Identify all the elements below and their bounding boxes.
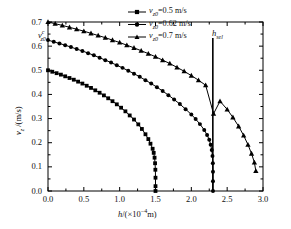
data-point [140, 127, 144, 131]
data-point [149, 142, 153, 146]
data-point [98, 56, 102, 60]
data-point [126, 69, 130, 73]
data-point [194, 117, 198, 121]
data-point [85, 84, 89, 88]
y-tick-label-3: 0.3 [16, 113, 42, 123]
data-point [76, 80, 80, 84]
data-point [144, 132, 148, 136]
x-tick-label-2: 1.0 [107, 194, 133, 204]
data-point [249, 151, 254, 156]
legend-value-2: =0.7 m/s [158, 31, 187, 40]
data-point [111, 99, 115, 103]
data-point [202, 128, 206, 132]
data-point [161, 89, 165, 93]
data-point [154, 184, 158, 188]
data-point [75, 47, 79, 51]
data-point [132, 118, 136, 122]
reference-line-label: hsel [212, 28, 223, 40]
data-point [132, 72, 136, 76]
data-point [46, 68, 50, 72]
y-tick-label-7: 0.7 [16, 17, 42, 27]
legend-entry-1[interactable]: vz0=0.62 m/s [149, 19, 191, 30]
data-point [146, 137, 150, 141]
data-point [103, 58, 107, 62]
data-point [86, 51, 90, 55]
data-point [153, 156, 157, 160]
y-axis-title-sub: z [19, 129, 25, 131]
data-point [128, 114, 132, 118]
data-point [149, 82, 153, 86]
y-tick-label-1: 0.1 [16, 161, 42, 171]
legend-entry-0[interactable]: vz0=0.5 m/s [149, 6, 187, 17]
legend-marker-square [135, 10, 139, 14]
data-point [50, 70, 54, 74]
vzc-annotation: vcz0 [38, 29, 46, 42]
data-point [153, 161, 157, 165]
data-point [63, 74, 67, 78]
legend-sample-0 [128, 10, 146, 14]
data-point [115, 63, 119, 67]
data-point [124, 109, 128, 113]
y-tick-label-2: 0.2 [16, 137, 42, 147]
data-point [252, 160, 257, 165]
data-point [203, 83, 208, 88]
data-point [102, 93, 106, 97]
data-point [119, 106, 123, 110]
data-point [253, 168, 258, 173]
y-tick-label-5: 0.5 [16, 65, 42, 75]
data-point [80, 49, 84, 53]
data-point [109, 61, 113, 65]
data-point [155, 85, 159, 89]
data-point [154, 176, 158, 180]
data-point [68, 76, 72, 80]
y-axis-title-main: v [13, 131, 23, 135]
legend-value-1: =0.62 m/s [158, 19, 191, 28]
x-tick-label-3: 1.5 [143, 194, 169, 204]
data-point [178, 102, 182, 106]
data-point [46, 38, 50, 42]
data-point [151, 147, 155, 151]
series-line-0 [48, 70, 156, 191]
legend-marker-circle [135, 22, 139, 26]
data-point [153, 168, 157, 172]
legend-entry-2[interactable]: vz0=0.7 m/s [149, 31, 187, 42]
data-point [98, 91, 102, 95]
reference-line-label-sub: sel [216, 34, 223, 40]
x-tick-label-0: 0.0 [35, 194, 61, 204]
data-point [72, 78, 76, 82]
data-point [89, 86, 93, 90]
data-point [69, 45, 73, 49]
data-point [217, 98, 222, 103]
data-point [138, 75, 142, 79]
data-point [172, 98, 176, 102]
x-tick-label-1: 0.5 [71, 194, 97, 204]
data-point [166, 93, 170, 97]
data-point [106, 96, 110, 100]
data-point [182, 69, 187, 74]
data-point [241, 133, 246, 138]
legend-value-0: =0.5 m/s [158, 6, 187, 15]
data-point [189, 112, 193, 116]
data-point [245, 142, 250, 147]
data-point [52, 40, 56, 44]
data-point [93, 88, 97, 92]
data-point [189, 73, 194, 78]
y-tick-label-4: 0.4 [16, 89, 42, 99]
data-point [198, 122, 202, 126]
data-point [196, 77, 201, 82]
data-point [81, 82, 85, 86]
x-axis-title-tail: m) [147, 209, 156, 219]
data-point [55, 71, 59, 75]
x-tick-label-4: 2.0 [178, 194, 204, 204]
data-point [92, 53, 96, 57]
data-point [205, 133, 209, 137]
y-tick-label-6: 0.6 [16, 41, 42, 51]
x-axis-title: h/(×10−4m) [118, 208, 157, 219]
data-point [207, 138, 211, 142]
legend-sample-2 [128, 34, 146, 39]
legend-sample-1 [128, 22, 146, 26]
data-point [59, 73, 63, 77]
data-point [136, 122, 140, 126]
x-axis-title-rest: /(×10 [122, 209, 141, 219]
data-point [57, 41, 61, 45]
